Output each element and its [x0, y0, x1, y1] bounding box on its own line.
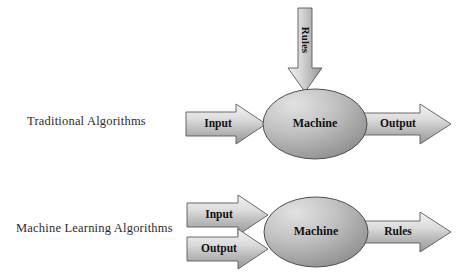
- diagram-root: Rules Input Output Machine I: [0, 0, 462, 279]
- diagram-canvas: Rules Input Output Machine I: [0, 0, 462, 279]
- arrow-rules-ml-label: Rules: [384, 225, 412, 237]
- arrow-rules-vertical-label: Rules: [300, 27, 312, 54]
- row-machine-learning-graphics: Input Output Rules Machine: [187, 195, 451, 269]
- arrow-input-ml[interactable]: Input: [187, 195, 268, 235]
- node-machine-traditional-label: Machine: [293, 116, 338, 130]
- node-machine-ml[interactable]: Machine: [264, 197, 368, 267]
- arrow-rules-vertical[interactable]: Rules: [288, 8, 322, 92]
- arrow-output-ml[interactable]: Output: [187, 229, 268, 269]
- arrow-output-ml-label: Output: [201, 242, 237, 255]
- arrow-rules-ml[interactable]: Rules: [363, 212, 451, 252]
- row-traditional-graphics: Rules Input Output Machine: [186, 8, 451, 159]
- arrow-input-traditional[interactable]: Input: [186, 104, 266, 144]
- arrow-input-ml-label: Input: [205, 208, 233, 221]
- arrow-input-traditional-label: Input: [204, 117, 232, 130]
- node-machine-ml-label: Machine: [294, 224, 339, 238]
- node-machine-traditional[interactable]: Machine: [263, 89, 367, 159]
- row-label-machine-learning: Machine Learning Algorithms: [16, 222, 173, 235]
- arrow-output-traditional[interactable]: Output: [362, 104, 451, 144]
- arrow-output-traditional-label: Output: [380, 117, 416, 130]
- row-label-traditional: Traditional Algorithms: [27, 115, 146, 128]
